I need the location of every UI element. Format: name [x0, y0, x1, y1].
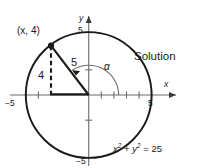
x-axis-label: x: [164, 80, 168, 89]
point-label: (x, 4): [17, 26, 40, 36]
x-axis-tick-positive: 5: [148, 99, 153, 108]
angle-arc: [72, 65, 119, 95]
x-axis-arrowhead: [169, 92, 176, 98]
circle-equation: x2 + y2 = 25: [113, 143, 162, 154]
opposite-length-label: 4: [38, 70, 44, 81]
equation-equals: =: [143, 143, 149, 154]
point-marker: [48, 43, 54, 49]
solution-label: Solution: [134, 51, 176, 63]
hypotenuse-length-label: 5: [71, 57, 77, 68]
y-axis-label: y: [79, 14, 83, 23]
x-axis-tick-negative: −5: [5, 99, 15, 108]
hypotenuse-radius: [51, 46, 89, 95]
angle-alpha-label: α: [104, 62, 110, 72]
equation-plus: +: [124, 143, 130, 154]
y-axis-arrowhead: [86, 16, 92, 23]
y-axis-tick-negative: −5: [76, 157, 86, 166]
trig-circle-figure: (x, 4) 4 5 α x y 5 −5 5 −5 Solution x2 +…: [0, 0, 198, 168]
y-axis-tick-positive: 5: [78, 26, 83, 35]
equation-rhs: 25: [151, 143, 162, 154]
